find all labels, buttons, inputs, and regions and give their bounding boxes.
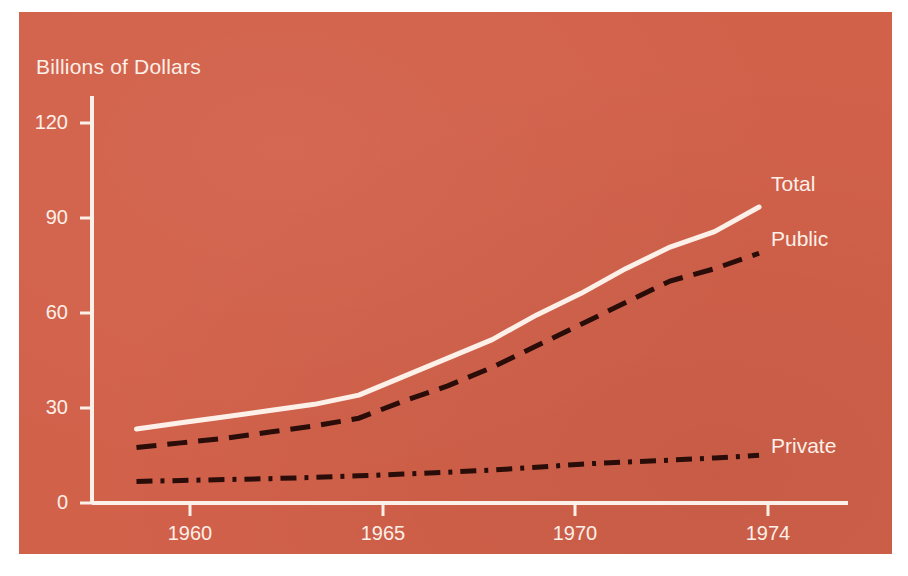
chart-figure: Billions of Dollars 120 90 60 30 0 1960 … bbox=[0, 0, 908, 576]
x-tick-label-1965: 1965 bbox=[338, 522, 428, 545]
y-axis-title: Billions of Dollars bbox=[36, 55, 201, 79]
x-tick-label-1974: 1974 bbox=[723, 522, 813, 545]
y-tick-label-120: 120 bbox=[8, 111, 68, 134]
y-tick-label-60: 60 bbox=[8, 301, 68, 324]
series-label-private: Private bbox=[771, 434, 836, 458]
y-tick-label-30: 30 bbox=[8, 396, 68, 419]
x-tick-label-1970: 1970 bbox=[530, 522, 620, 545]
series-line-total bbox=[136, 207, 759, 429]
chart-plot-area bbox=[0, 0, 908, 576]
y-tick-label-90: 90 bbox=[8, 206, 68, 229]
series-label-public: Public bbox=[771, 227, 828, 251]
y-tick-label-0: 0 bbox=[8, 491, 68, 514]
series-line-private bbox=[136, 455, 759, 481]
x-tick-label-1960: 1960 bbox=[145, 522, 235, 545]
series-label-total: Total bbox=[771, 172, 815, 196]
